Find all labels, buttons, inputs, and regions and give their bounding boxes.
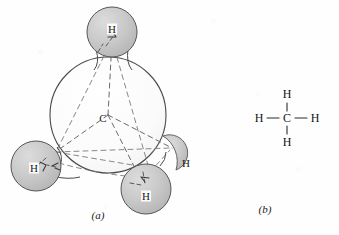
formula-carbon: C bbox=[283, 111, 291, 126]
formula-hydrogen-right: H bbox=[311, 111, 320, 126]
figure-root: H H H H C (a) C H H H H (b) bbox=[0, 0, 339, 235]
formula-hydrogen-left: H bbox=[255, 111, 264, 126]
formula-hydrogen-down: H bbox=[283, 135, 292, 150]
formula-hydrogen-up: H bbox=[283, 87, 292, 102]
caption-panel-b: (b) bbox=[259, 203, 272, 215]
